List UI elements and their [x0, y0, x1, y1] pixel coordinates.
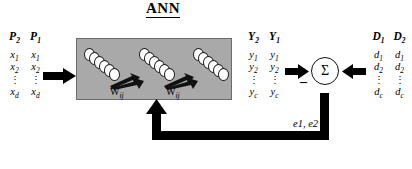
desired-ellipsis: ⋮ [374, 74, 384, 87]
weight-label-left: Wij [110, 86, 124, 100]
input-cell: xd [31, 86, 39, 99]
feedback-horizontal-segment [152, 131, 329, 140]
output-cell: yc [249, 86, 257, 99]
network-output-labels: Y2 y1 y2 ⋮ yc Y1 y1 y2 ⋮ yc [243, 30, 285, 99]
feedback-arrowhead [146, 99, 167, 119]
desired-cell: d1 [395, 49, 404, 62]
minus-sign: – [300, 78, 307, 86]
desired-to-summation-arrow [341, 64, 366, 83]
output-ellipsis: ⋮ [249, 74, 259, 87]
weight-label-right-subscript: ij [175, 91, 179, 100]
input-arrow [43, 68, 77, 88]
input-cell: x2 [10, 61, 18, 74]
input-header-p2: P2 [9, 30, 20, 48]
input-cell: xd [10, 86, 18, 99]
input-ellipsis: ⋮ [31, 74, 41, 87]
input-cell: x2 [31, 61, 39, 74]
weight-label-left-subscript: ij [119, 91, 123, 100]
input-column-p2: P2 x1 x2 ⋮ xd [4, 30, 25, 99]
figure-title: ANN [146, 1, 180, 18]
desired-header-d2: D2 [393, 30, 405, 48]
desired-cell: d2 [395, 61, 404, 74]
desired-cell: dc [395, 86, 404, 99]
ann-diagram-figure: ANN P2 x1 x2 ⋮ xd P1 x1 x2 ⋮ xd [0, 0, 412, 169]
output-cell: y1 [270, 49, 278, 62]
output-cell: y2 [270, 61, 278, 74]
output-cell: yc [270, 86, 278, 99]
output-header-y2: Y2 [248, 30, 259, 48]
desired-cell: d2 [374, 61, 383, 74]
output-cell: y2 [249, 61, 257, 74]
desired-ellipsis: ⋮ [395, 74, 405, 87]
output-header-y1: Y1 [269, 30, 280, 48]
desired-header-d1: D1 [372, 30, 384, 48]
desired-cell: d1 [374, 49, 383, 62]
error-signal-label: e1, e2 [293, 118, 318, 129]
input-pattern-labels: P2 x1 x2 ⋮ xd P1 x1 x2 ⋮ xd [4, 30, 46, 99]
output-cell: y1 [249, 49, 257, 62]
output-column-y2: Y2 y1 y2 ⋮ yc [243, 30, 264, 99]
output-ellipsis: ⋮ [270, 74, 280, 87]
summation-node: Σ [311, 57, 339, 85]
desired-column-d2: D2 d1 d2 ⋮ dc [389, 30, 410, 99]
weight-label-right: Wij [166, 86, 180, 100]
input-ellipsis: ⋮ [10, 74, 20, 87]
desired-output-labels: D1 d1 d2 ⋮ dc D2 d1 d2 ⋮ dc [368, 30, 410, 99]
sigma-symbol: Σ [321, 63, 329, 79]
desired-cell: dc [374, 86, 383, 99]
input-header-p1: P1 [30, 30, 41, 48]
desired-column-d1: D1 d1 d2 ⋮ dc [368, 30, 389, 99]
input-cell: x1 [31, 49, 39, 62]
output-column-y1: Y1 y1 y2 ⋮ yc [264, 30, 285, 99]
input-column-p1: P1 x1 x2 ⋮ xd [25, 30, 46, 99]
input-cell: x1 [10, 49, 18, 62]
